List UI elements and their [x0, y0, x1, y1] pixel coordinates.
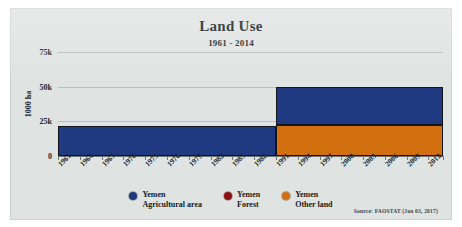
legend-label-line1: Yemen: [237, 190, 260, 199]
legend-label-line2: Agricultural area: [142, 200, 202, 210]
x-tick-mark-end: [443, 156, 444, 160]
legend-marker-icon: [129, 192, 137, 200]
series-block-agricultural-area-1961-1991: [58, 126, 276, 156]
series-block-agricultural-area-1991-2014: [276, 87, 443, 126]
chart-legend: YemenAgricultural areaYemenForestYemenOt…: [10, 190, 452, 209]
legend-label-line2: Other land: [295, 200, 332, 210]
y-tick-label-0: 0: [48, 152, 52, 161]
legend-label: YemenOther land: [295, 190, 332, 209]
legend-label: YemenAgricultural area: [142, 190, 202, 209]
legend-label-line1: Yemen: [142, 190, 165, 199]
x-axis: 1961196419671970197319761979198219851988…: [58, 156, 443, 192]
legend-label-line2: Forest: [237, 200, 260, 210]
y-tick-label-50k: 50k: [40, 82, 52, 91]
legend-item-2[interactable]: YemenOther land: [282, 190, 332, 209]
y-tick-label-75k: 75k: [40, 48, 52, 57]
chart-title: Land Use: [10, 18, 452, 35]
legend-item-1[interactable]: YemenForest: [224, 190, 260, 209]
gridline-75k: [58, 52, 443, 53]
legend-label-line1: Yemen: [295, 190, 318, 199]
chart-panel: Land Use 1961 - 2014 1000 ha 025k50k75k …: [10, 8, 452, 220]
legend-item-0[interactable]: YemenAgricultural area: [129, 190, 202, 209]
y-axis-label: 1000 ha: [24, 91, 33, 117]
chart-subtitle: 1961 - 2014: [10, 38, 452, 48]
y-tick-label-25k: 25k: [40, 117, 52, 126]
legend-marker-icon: [282, 192, 290, 200]
legend-label: YemenForest: [237, 190, 260, 209]
series-block-other-land-1991-2014: [276, 125, 443, 156]
chart-screenshot: Land Use 1961 - 2014 1000 ha 025k50k75k …: [0, 0, 462, 227]
source-note: Source: FAOSTAT (Jan 03, 2017): [354, 208, 438, 214]
legend-marker-icon: [224, 192, 232, 200]
plot-area: 025k50k75k: [58, 52, 443, 156]
